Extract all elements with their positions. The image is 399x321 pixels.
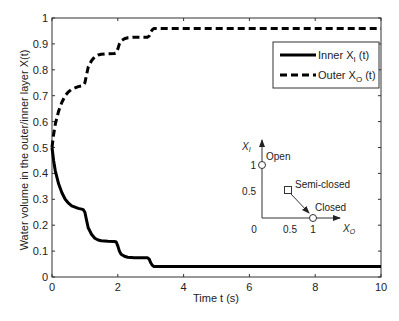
y-tick-label: 0.1 <box>33 245 48 257</box>
legend-outer-tail: (t) <box>362 69 375 81</box>
inset-point-open <box>259 162 266 169</box>
y-tick-label: 0 <box>42 271 48 283</box>
x-tick-label: 8 <box>312 281 318 293</box>
inset-point-semi-closed <box>285 187 292 194</box>
x-tick-label: 6 <box>246 281 252 293</box>
y-axis-label: Water volume in the outer/inner layer X(… <box>18 50 30 251</box>
y-tick-label: 0.7 <box>33 90 48 102</box>
inset-x-label: XO <box>342 223 356 235</box>
inset-transition-arrow <box>291 194 309 213</box>
y-tick-label: 0.4 <box>33 167 48 179</box>
inset-ytick-0.5: 0.5 <box>242 186 256 197</box>
y-tick-label: 0.6 <box>33 116 48 128</box>
x-tick-label: 4 <box>181 281 187 293</box>
inset-label-open: Open <box>266 151 290 162</box>
x-tick-label: 2 <box>115 281 121 293</box>
chart: 0246810 00.10.20.30.40.50.60.70.80.91 Ti… <box>0 0 399 321</box>
inset-y-label: XI <box>241 141 251 153</box>
legend-outer-main: Outer X <box>318 69 357 81</box>
x-axis-label: Time t (s) <box>193 292 239 304</box>
y-tick-label: 0.9 <box>33 38 48 50</box>
inset-diagram: XO XI 0 0.5 1 1 0.5 Open Semi-closed Clo… <box>241 140 356 235</box>
legend-inner-tail: (t) <box>356 49 369 61</box>
legend: Inner XI (t) Outer XO (t) <box>273 42 379 88</box>
x-tick-label: 10 <box>375 281 387 293</box>
inset-origin-label: 0 <box>251 224 257 235</box>
inset-label-closed: Closed <box>315 202 346 213</box>
inset-xtick-1: 1 <box>310 224 316 235</box>
y-tick-label: 0.8 <box>33 64 48 76</box>
inset-label-semi-closed: Semi-closed <box>295 179 350 190</box>
y-tick-label: 0.3 <box>33 193 48 205</box>
y-tick-label: 1 <box>42 12 48 24</box>
inset-point-closed <box>310 215 317 222</box>
inset-xtick-0.5: 0.5 <box>283 224 297 235</box>
legend-inner-main: Inner X <box>318 49 354 61</box>
y-tick-label: 0.5 <box>33 142 48 154</box>
x-tick-label: 0 <box>49 281 55 293</box>
inset-ytick-1: 1 <box>250 160 256 171</box>
y-tick-label: 0.2 <box>33 219 48 231</box>
